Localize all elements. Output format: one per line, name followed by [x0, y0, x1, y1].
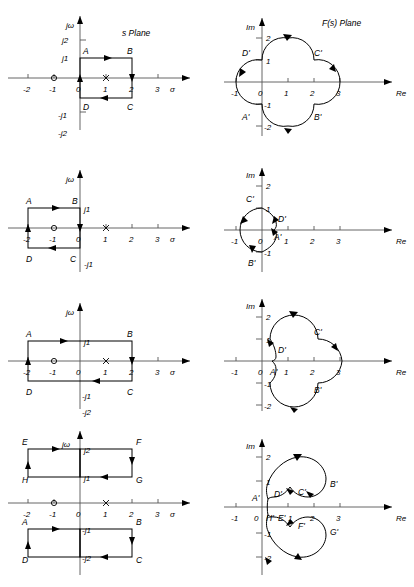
svg-text:Im: Im [246, 442, 255, 451]
svg-text:-j2: -j2 [58, 129, 67, 138]
svg-text:2: 2 [128, 235, 134, 244]
svg-text:j1: j1 [83, 474, 90, 483]
svg-text:Re: Re [396, 514, 407, 523]
svg-text:3: 3 [155, 368, 160, 377]
svg-text:C: C [70, 254, 77, 264]
svg-text:G': G' [330, 527, 339, 537]
svg-text:σ: σ [170, 368, 176, 377]
svg-text:-1: -1 [231, 237, 238, 246]
svg-text:A': A' [273, 232, 282, 242]
svg-text:Im: Im [246, 171, 255, 180]
svg-text:1: 1 [266, 57, 270, 66]
svg-text:C: C [127, 102, 134, 112]
svg-text:j2: j2 [83, 446, 91, 455]
svg-text:0: 0 [254, 514, 259, 523]
svg-text:-2: -2 [23, 368, 31, 377]
svg-text:C: C [127, 387, 134, 397]
svg-text:0: 0 [258, 89, 263, 98]
svg-text:σ: σ [170, 85, 176, 94]
svg-text:D': D' [242, 48, 250, 58]
svg-text:C': C' [314, 327, 322, 337]
svg-text:-2: -2 [264, 123, 272, 132]
svg-text:C': C' [314, 48, 322, 58]
svg-text:3: 3 [155, 235, 160, 244]
svg-text:C': C' [246, 194, 254, 204]
svg-text:jω: jω [65, 175, 74, 184]
svg-text:C: C [136, 555, 143, 565]
svg-text:3: 3 [155, 510, 160, 519]
svg-text:B': B' [314, 385, 322, 395]
svg-text:2: 2 [128, 368, 134, 377]
svg-text:0: 0 [76, 368, 81, 377]
svg-text:A: A [82, 46, 89, 56]
svg-text:B: B [136, 517, 142, 527]
svg-text:B: B [127, 46, 133, 56]
svg-text:2: 2 [265, 182, 271, 191]
svg-text:E': E' [278, 513, 286, 523]
svg-text:D': D' [278, 345, 286, 355]
svg-text:s Plane: s Plane [122, 28, 151, 38]
svg-text:2: 2 [309, 368, 315, 377]
svg-text:-j1: -j1 [82, 392, 91, 401]
svg-text:2: 2 [265, 453, 271, 462]
svg-text:jω: jω [65, 21, 74, 30]
svg-text:2: 2 [265, 34, 271, 43]
svg-text:B': B' [330, 479, 338, 489]
svg-text:F': F' [298, 521, 305, 531]
row-4-s-plane: -2 -1 0 1 2 3 j2 j1 -j1 -j2 E F G H A B … [0, 415, 210, 587]
svg-text:F: F [136, 437, 142, 447]
svg-text:1: 1 [284, 89, 288, 98]
svg-text:D: D [22, 555, 28, 565]
svg-text:2: 2 [265, 313, 271, 322]
svg-text:G: G [136, 475, 143, 485]
figure-root: -2 -1 0 1 2 3 j2 j1 -j1 -j2 s Plane A B … [0, 0, 414, 587]
svg-text:Re: Re [396, 368, 407, 377]
svg-text:A: A [25, 196, 32, 206]
svg-text:jω: jω [61, 440, 70, 449]
svg-text:-1: -1 [49, 368, 56, 377]
svg-text:E: E [22, 437, 28, 447]
svg-text:Im: Im [246, 302, 255, 311]
svg-text:jω: jω [65, 308, 74, 317]
svg-text:3: 3 [336, 514, 341, 523]
svg-text:B: B [127, 329, 133, 339]
svg-text:j1: j1 [61, 54, 68, 63]
svg-text:-1: -1 [49, 510, 56, 519]
svg-text:3: 3 [336, 237, 341, 246]
svg-text:-1: -1 [231, 514, 238, 523]
svg-text:B: B [72, 196, 78, 206]
svg-text:B': B' [314, 112, 322, 122]
svg-text:D': D' [278, 214, 286, 224]
svg-text:-1: -1 [264, 530, 271, 539]
svg-text:A': A' [269, 367, 278, 377]
svg-text:1: 1 [284, 237, 288, 246]
svg-text:-2: -2 [23, 235, 31, 244]
svg-text:C': C' [298, 487, 306, 497]
svg-text:2: 2 [309, 89, 315, 98]
svg-text:-j1: -j1 [84, 260, 93, 269]
row-3-s-plane: -2 -1 0 1 2 3 j1 -j1 -j2 A B C D σ jω [0, 275, 210, 415]
svg-text:D': D' [274, 489, 282, 499]
svg-text:0: 0 [76, 510, 81, 519]
svg-text:D: D [26, 254, 32, 264]
svg-text:Re: Re [396, 237, 407, 246]
svg-text:H: H [22, 475, 29, 485]
svg-text:D: D [83, 102, 89, 112]
svg-text:0: 0 [258, 237, 263, 246]
svg-text:-j1: -j1 [82, 526, 91, 535]
svg-text:-2: -2 [264, 402, 272, 411]
row-3-f-plane: -1 0 1 2 3 2 1 -1 -2 Re Im D' C' B' A' [210, 275, 414, 415]
svg-text:1: 1 [103, 85, 107, 94]
row-2-s-plane: -2 -1 0 1 2 3 j1 -j1 A B C D σ jω [0, 140, 210, 275]
svg-text:σ: σ [170, 510, 176, 519]
svg-text:1: 1 [103, 235, 107, 244]
svg-text:A: A [21, 517, 28, 527]
row-1-f-plane: -1 0 1 2 3 2 1 -1 -2 F(s) Plane Re Im D'… [210, 0, 414, 140]
svg-text:2: 2 [128, 85, 134, 94]
svg-text:j1: j1 [83, 338, 90, 347]
svg-text:0: 0 [258, 368, 263, 377]
svg-text:F(s) Plane: F(s) Plane [322, 18, 361, 28]
svg-text:Re: Re [396, 89, 407, 98]
svg-text:-1: -1 [264, 101, 271, 110]
row-1-s-plane: -2 -1 0 1 2 3 j2 j1 -j1 -j2 s Plane A B … [0, 0, 210, 140]
